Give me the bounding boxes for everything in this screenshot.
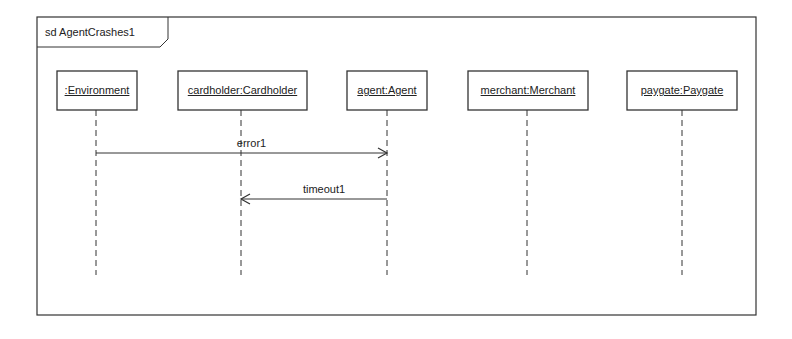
- sequence-diagram-canvas: [0, 0, 792, 339]
- lifeline-label: agent:Agent: [347, 84, 427, 96]
- message-label: timeout1: [294, 183, 354, 195]
- lifeline-label: paygate:Paygate: [627, 84, 737, 96]
- frame-border: [37, 17, 756, 315]
- lifeline-label: cardholder:Cardholder: [178, 84, 307, 96]
- frame-title: sd AgentCrashes1: [45, 26, 135, 38]
- lifeline-label: merchant:Merchant: [468, 84, 588, 96]
- message-label: error1: [222, 137, 282, 149]
- lifeline-label: :Environment: [57, 84, 137, 96]
